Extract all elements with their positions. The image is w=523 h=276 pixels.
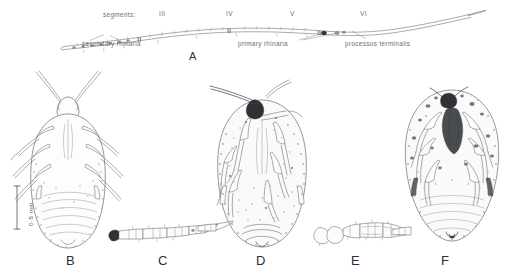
figure-a-group: segments: III IV V VI secondary rhinaria… bbox=[0, 0, 523, 66]
segment-numeral-v: V bbox=[290, 11, 295, 18]
scale-bar-label: 0·5 mm bbox=[28, 202, 34, 226]
figure-f-aphid-drawing bbox=[392, 84, 514, 250]
illustration-plate: segments: III IV V VI secondary rhinaria… bbox=[0, 0, 523, 276]
segment-numeral-iv: IV bbox=[226, 11, 233, 18]
segment-numeral-vi: VI bbox=[360, 11, 367, 18]
figure-a-antenna-drawing bbox=[0, 0, 523, 66]
scale-bar bbox=[14, 186, 20, 229]
figure-letter-a: A bbox=[189, 51, 197, 62]
figure-d-aphid-drawing bbox=[196, 78, 328, 250]
antenna-fragment bbox=[392, 227, 411, 235]
figure-letter-b: B bbox=[66, 254, 75, 267]
annotation-secondary-rhinaria: secondary rhinaria bbox=[82, 41, 141, 47]
figure-letter-c: C bbox=[158, 254, 168, 267]
annotation-processus-terminalis: processus terminalis bbox=[345, 41, 410, 47]
figure-f-group bbox=[392, 84, 514, 250]
segments-label: segments: bbox=[103, 12, 136, 18]
figure-d-group bbox=[196, 78, 328, 250]
annotation-primary-rhinaria: primary rhinaria bbox=[238, 41, 288, 47]
figure-letter-e: E bbox=[351, 254, 360, 267]
figure-letter-d: D bbox=[256, 254, 266, 267]
figure-letter-f: F bbox=[441, 254, 449, 267]
segment-numeral-iii: III bbox=[159, 11, 165, 18]
antenna-fragment bbox=[198, 221, 233, 231]
